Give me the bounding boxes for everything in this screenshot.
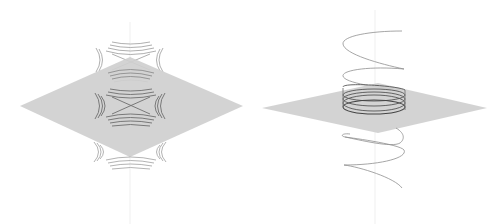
- helix-panel: [0, 0, 503, 224]
- figure-canvas: [0, 0, 503, 224]
- helix-plane: [262, 83, 487, 133]
- helix-lower: [342, 128, 404, 188]
- helix-upper: [343, 31, 405, 90]
